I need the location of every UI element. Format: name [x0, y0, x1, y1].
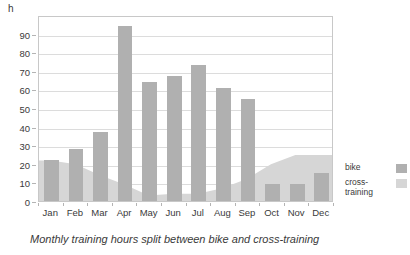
y-axis-tick-label: 70 — [19, 66, 30, 77]
bar — [216, 88, 231, 201]
x-axis-tick-label: Apr — [117, 207, 132, 218]
legend-swatch — [396, 179, 407, 188]
y-axis-tick-mark — [32, 90, 36, 91]
bar — [241, 99, 256, 201]
x-axis-tick-label: Feb — [67, 207, 83, 218]
y-axis-tick-label: 0 — [25, 197, 30, 208]
bar — [191, 65, 206, 201]
y-axis-tick-label: 30 — [19, 141, 30, 152]
x-axis-tick-label: Sep — [239, 207, 256, 218]
y-axis-tick-mark — [32, 146, 36, 147]
x-axis-tick-mark — [259, 203, 260, 206]
x-axis-tick-label: Mar — [91, 207, 107, 218]
y-axis-tick-label: 20 — [19, 159, 30, 170]
chart-figure: h 0102030405060708090 JanFebMarAprMayJun… — [0, 0, 410, 255]
y-axis-tick-mark — [32, 128, 36, 129]
bar — [142, 82, 157, 201]
x-axis-tick-label: Aug — [214, 207, 231, 218]
bar — [265, 184, 280, 201]
x-axis-tick-label: Jan — [43, 207, 58, 218]
y-axis-tick-label: 10 — [19, 178, 30, 189]
x-axis-tick-label: May — [140, 207, 158, 218]
bar — [290, 184, 305, 201]
x-axis-tick-mark — [284, 203, 285, 206]
legend-item: cross-training — [345, 178, 407, 197]
legend-item: bike — [345, 163, 407, 173]
x-axis-tick-mark — [38, 203, 39, 206]
legend-swatch — [396, 164, 407, 173]
y-axis-unit-label: h — [8, 3, 14, 14]
bar — [44, 160, 59, 201]
legend-item-label: bike — [345, 163, 396, 173]
y-axis-tick-label: 60 — [19, 85, 30, 96]
x-axis-tick-label: Jul — [192, 207, 204, 218]
y-axis-tick-mark — [32, 183, 36, 184]
legend-item-label: cross-training — [345, 178, 396, 197]
y-axis-tick-mark — [32, 165, 36, 166]
x-axis: JanFebMarAprMayJunJulAugSepOctNovDec — [38, 203, 333, 221]
y-axis-tick-label: 50 — [19, 104, 30, 115]
bar — [118, 26, 133, 201]
x-axis-tick-mark — [308, 203, 309, 206]
bar — [167, 76, 182, 201]
y-axis-tick-mark — [32, 35, 36, 36]
y-axis-tick-label: 40 — [19, 122, 30, 133]
y-axis-tick-mark — [32, 202, 36, 203]
bar — [93, 132, 108, 201]
x-axis-tick-mark — [210, 203, 211, 206]
chart-caption: Monthly training hours split between bik… — [30, 233, 319, 245]
x-axis-tick-mark — [63, 203, 64, 206]
x-axis-tick-mark — [161, 203, 162, 206]
y-axis: 0102030405060708090 — [0, 16, 36, 202]
y-axis-tick-mark — [32, 72, 36, 73]
x-axis-tick-mark — [235, 203, 236, 206]
y-axis-tick-label: 80 — [19, 48, 30, 59]
x-axis-tick-label: Nov — [288, 207, 305, 218]
y-axis-tick-mark — [32, 53, 36, 54]
x-axis-tick-label: Dec — [312, 207, 329, 218]
y-axis-tick-mark — [32, 109, 36, 110]
bar — [314, 173, 329, 201]
x-axis-tick-mark — [136, 203, 137, 206]
bar — [69, 149, 84, 201]
x-axis-tick-mark — [186, 203, 187, 206]
chart-legend: bikecross-training — [345, 163, 407, 202]
x-axis-tick-label: Oct — [264, 207, 279, 218]
series-layer — [39, 17, 332, 201]
y-axis-tick-label: 90 — [19, 29, 30, 40]
x-axis-tick-label: Jun — [166, 207, 181, 218]
plot-area — [38, 16, 333, 202]
x-axis-tick-mark — [87, 203, 88, 206]
x-axis-tick-mark — [333, 203, 334, 206]
x-axis-tick-mark — [112, 203, 113, 206]
